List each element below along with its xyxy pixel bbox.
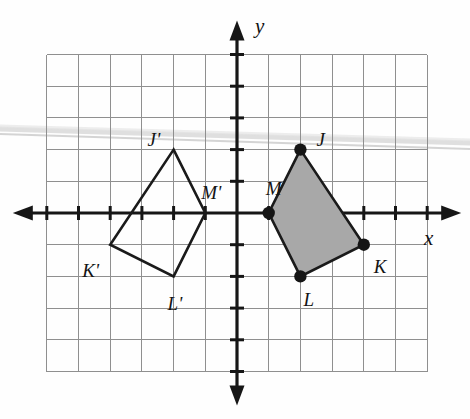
vertex-dot-K: [358, 239, 370, 251]
vertex-label-K: K: [374, 257, 387, 276]
vertex-label-L-prime: L': [168, 294, 183, 313]
coordinate-plane-figure: x y JKLMJ'K'L'M': [0, 0, 470, 419]
scan-artifact-group: [0, 126, 470, 149]
axes: [13, 21, 461, 406]
x-axis-label: x: [424, 228, 433, 249]
vertex-label-M-prime: M': [201, 183, 221, 202]
coordinate-plane-svg: [0, 0, 470, 419]
vertex-dot-J: [294, 143, 306, 155]
vertex-dot-L: [294, 270, 306, 282]
vertex-dot-M: [263, 207, 275, 219]
vertex-label-J: J: [316, 130, 325, 149]
vertex-label-J-prime: J': [148, 130, 161, 149]
vertex-label-K-prime: K': [82, 261, 99, 280]
y-axis-label: y: [255, 16, 264, 37]
vertex-label-L: L: [303, 290, 314, 309]
vertex-label-M: M: [266, 179, 282, 198]
